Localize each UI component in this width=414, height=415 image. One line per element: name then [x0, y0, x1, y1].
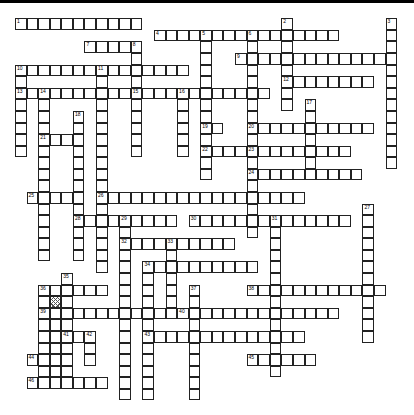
crossword-cell[interactable] — [189, 354, 201, 366]
crossword-cell[interactable] — [50, 331, 62, 343]
crossword-cell[interactable]: 43 — [142, 331, 154, 343]
crossword-cell[interactable]: 41 — [61, 331, 73, 343]
crossword-cell[interactable] — [386, 157, 398, 169]
crossword-cell[interactable] — [96, 169, 108, 181]
crossword-cell[interactable] — [316, 30, 328, 42]
crossword-cell[interactable] — [96, 180, 108, 192]
crossword-cell[interactable] — [305, 146, 317, 158]
crossword-cell[interactable] — [38, 146, 50, 158]
crossword-cell[interactable] — [223, 261, 235, 273]
crossword-cell[interactable]: 28 — [73, 215, 85, 227]
crossword-cell[interactable] — [73, 204, 85, 216]
crossword-cell[interactable] — [189, 261, 201, 273]
crossword-cell[interactable] — [73, 227, 85, 239]
crossword-cell[interactable] — [247, 331, 259, 343]
crossword-cell[interactable] — [258, 308, 270, 320]
crossword-cell[interactable] — [166, 88, 178, 100]
crossword-cell[interactable] — [293, 331, 305, 343]
crossword-cell[interactable] — [73, 308, 85, 320]
crossword-cell[interactable] — [131, 65, 143, 77]
crossword-cell[interactable]: 7 — [84, 41, 96, 53]
crossword-cell[interactable] — [142, 273, 154, 285]
crossword-cell[interactable] — [73, 65, 85, 77]
crossword-cell[interactable] — [281, 123, 293, 135]
crossword-cell[interactable] — [200, 88, 212, 100]
crossword-cell[interactable] — [200, 111, 212, 123]
crossword-cell[interactable] — [362, 227, 374, 239]
crossword-cell[interactable] — [73, 180, 85, 192]
crossword-cell[interactable] — [200, 261, 212, 273]
crossword-cell[interactable] — [154, 331, 166, 343]
crossword-cell[interactable] — [189, 366, 201, 378]
crossword-cell[interactable] — [362, 273, 374, 285]
crossword-cell[interactable] — [270, 192, 282, 204]
crossword-cell[interactable] — [223, 331, 235, 343]
crossword-cell[interactable] — [50, 192, 62, 204]
crossword-cell[interactable] — [108, 88, 120, 100]
crossword-cell[interactable] — [84, 308, 96, 320]
crossword-cell[interactable] — [50, 354, 62, 366]
crossword-cell[interactable] — [119, 18, 131, 30]
crossword-cell[interactable] — [293, 146, 305, 158]
crossword-cell[interactable] — [247, 215, 259, 227]
crossword-cell[interactable]: 27 — [362, 204, 374, 216]
crossword-cell[interactable] — [339, 285, 351, 297]
crossword-cell[interactable] — [73, 88, 85, 100]
crossword-cell[interactable] — [96, 238, 108, 250]
crossword-cell[interactable]: 33 — [166, 238, 178, 250]
crossword-cell[interactable] — [200, 215, 212, 227]
crossword-cell[interactable] — [281, 354, 293, 366]
crossword-cell[interactable] — [131, 76, 143, 88]
crossword-cell[interactable] — [142, 238, 154, 250]
crossword-cell[interactable] — [258, 169, 270, 181]
crossword-cell[interactable] — [351, 285, 363, 297]
crossword-cell[interactable] — [189, 296, 201, 308]
crossword-cell[interactable] — [61, 18, 73, 30]
crossword-cell[interactable] — [73, 157, 85, 169]
crossword-cell[interactable]: 23 — [247, 146, 259, 158]
crossword-cell[interactable] — [316, 53, 328, 65]
crossword-cell[interactable] — [38, 111, 50, 123]
crossword-cell[interactable] — [351, 123, 363, 135]
crossword-cell[interactable] — [50, 134, 62, 146]
crossword-cell[interactable]: 25 — [27, 192, 39, 204]
crossword-cell[interactable] — [270, 53, 282, 65]
crossword-cell[interactable] — [119, 389, 131, 401]
crossword-cell[interactable] — [84, 18, 96, 30]
crossword-cell[interactable] — [15, 111, 27, 123]
crossword-cell[interactable] — [223, 238, 235, 250]
crossword-cell[interactable] — [61, 134, 73, 146]
crossword-cell[interactable] — [328, 53, 340, 65]
crossword-cell[interactable] — [223, 192, 235, 204]
crossword-cell[interactable] — [189, 30, 201, 42]
crossword-cell[interactable] — [189, 192, 201, 204]
crossword-cell[interactable] — [131, 134, 143, 146]
crossword-cell[interactable] — [362, 261, 374, 273]
crossword-cell[interactable] — [154, 308, 166, 320]
crossword-cell[interactable] — [108, 308, 120, 320]
crossword-cell[interactable] — [270, 146, 282, 158]
crossword-cell[interactable] — [38, 192, 50, 204]
crossword-cell[interactable] — [177, 123, 189, 135]
crossword-cell[interactable] — [38, 296, 50, 308]
crossword-cell[interactable] — [15, 146, 27, 158]
crossword-cell[interactable] — [247, 134, 259, 146]
crossword-cell[interactable] — [177, 111, 189, 123]
crossword-cell[interactable] — [96, 111, 108, 123]
crossword-cell[interactable] — [247, 192, 259, 204]
crossword-cell[interactable] — [223, 88, 235, 100]
crossword-cell[interactable] — [38, 180, 50, 192]
crossword-cell[interactable] — [142, 354, 154, 366]
crossword-cell[interactable] — [131, 238, 143, 250]
crossword-cell[interactable] — [316, 308, 328, 320]
crossword-cell[interactable] — [119, 343, 131, 355]
crossword-cell[interactable] — [258, 123, 270, 135]
crossword-cell[interactable] — [362, 285, 374, 297]
crossword-cell[interactable]: 10 — [15, 65, 27, 77]
crossword-cell[interactable] — [386, 30, 398, 42]
crossword-cell[interactable] — [362, 296, 374, 308]
crossword-cell[interactable] — [131, 308, 143, 320]
crossword-cell[interactable] — [386, 111, 398, 123]
crossword-cell[interactable] — [270, 238, 282, 250]
crossword-cell[interactable] — [386, 99, 398, 111]
